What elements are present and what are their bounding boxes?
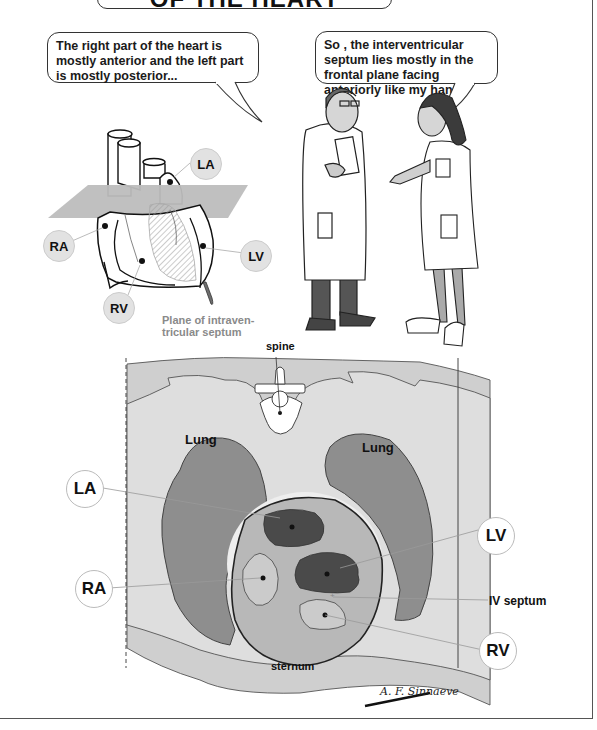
- section-label-ra: RA: [75, 570, 113, 608]
- heart-label-la-text: LA: [197, 157, 214, 172]
- iv-septum-label: IV septum: [489, 594, 546, 608]
- heart-label-lv-text: LV: [248, 249, 264, 264]
- heart-label-lv: LV: [240, 240, 272, 272]
- signature: A. F. Sinnaeve: [380, 685, 459, 698]
- nurse-figure: [390, 93, 478, 346]
- section-label-lv: LV: [477, 517, 515, 555]
- spine-label: spine: [266, 340, 295, 352]
- section-label-rv-text: RV: [486, 641, 509, 661]
- section-label-lv-text: LV: [486, 526, 506, 546]
- sternum-label: sternum: [271, 660, 314, 672]
- heart-label-ra-text: RA: [50, 239, 69, 254]
- caption-line-1: Plane of intraven-: [162, 314, 254, 326]
- illustration-canvas: +: [0, 0, 597, 730]
- section-label-la: LA: [66, 470, 104, 508]
- section-label-la-text: LA: [74, 479, 97, 499]
- heart-label-ra: RA: [43, 230, 75, 262]
- section-label-rv: RV: [479, 632, 517, 670]
- heart-label-rv: RV: [103, 292, 135, 324]
- caption-line-2: tricular septum: [162, 326, 254, 338]
- doctor-figure: [303, 88, 375, 330]
- section-label-ra-text: RA: [82, 579, 107, 599]
- cross-section: +: [103, 357, 490, 706]
- heart-label-rv-text: RV: [110, 301, 128, 316]
- lung-right-label: Lung: [362, 440, 394, 455]
- lung-left-label: Lung: [185, 432, 217, 447]
- svg-text:+: +: [330, 591, 335, 600]
- septum-plane-caption: Plane of intraven- tricular septum: [162, 314, 254, 338]
- heart-label-la: LA: [190, 148, 222, 180]
